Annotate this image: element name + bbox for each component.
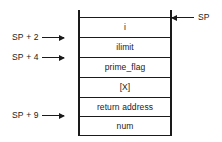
- arrow-left-icon: [172, 17, 194, 19]
- pointer-sp-plus-2-label: SP + 2: [12, 33, 39, 42]
- stack-cell-x-label: [X]: [120, 83, 131, 92]
- stack-cell-x: [X]: [80, 77, 170, 97]
- pointer-sp-plus-9: SP + 9: [12, 110, 64, 121]
- pointer-sp: SP: [172, 12, 210, 23]
- stack-cell-num: num: [80, 116, 170, 136]
- stack-box: i ilimit prime_flag [X] return address n…: [78, 10, 172, 136]
- stack-cell-prime-flag-label: prime_flag: [105, 63, 146, 72]
- arrow-right-icon: [42, 115, 64, 117]
- stack-cell-return-address-label: return address: [97, 103, 153, 112]
- stack-cell-ilimit: ilimit: [80, 37, 170, 57]
- arrow-right-icon: [42, 57, 64, 59]
- arrow-right-icon: [42, 37, 64, 39]
- pointer-sp-label: SP: [198, 13, 210, 22]
- stack-cell-ilimit-label: ilimit: [116, 43, 134, 52]
- stack-cell-i-label: i: [124, 23, 126, 32]
- stack-cell-i: i: [80, 17, 170, 37]
- pointer-sp-plus-2: SP + 2: [12, 32, 64, 43]
- stack-cell-prime-flag: prime_flag: [80, 57, 170, 77]
- pointer-sp-plus-4-label: SP + 4: [12, 53, 39, 62]
- pointer-sp-plus-9-label: SP + 9: [12, 111, 39, 120]
- pointer-sp-plus-4: SP + 4: [12, 52, 64, 63]
- stack-cell-return-address: return address: [80, 97, 170, 116]
- stack-cell-top-gap: [80, 10, 170, 17]
- stack-frame-diagram: i ilimit prime_flag [X] return address n…: [0, 0, 222, 142]
- stack-cell-num-label: num: [117, 122, 134, 131]
